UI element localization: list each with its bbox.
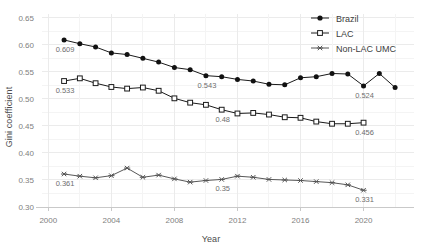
data-label-0-533: 0.533 xyxy=(56,86,75,95)
data-point-marker xyxy=(93,81,98,86)
data-point-marker xyxy=(314,119,319,124)
data-point-marker xyxy=(77,76,82,81)
y-axis-title: Gini coefficient xyxy=(4,77,14,157)
y-tick-label: 0.30 xyxy=(18,203,34,212)
data-point-marker xyxy=(188,67,193,72)
data-point-marker xyxy=(345,72,350,77)
x-tick-label: 2020 xyxy=(355,216,373,225)
data-point-marker xyxy=(314,74,319,79)
data-label-0-524: 0.524 xyxy=(355,91,374,100)
data-point-marker xyxy=(140,85,145,90)
legend-marker-open-square-icon xyxy=(318,31,323,36)
data-point-marker xyxy=(361,120,366,125)
series-line-non-lac-umc xyxy=(64,168,363,190)
data-label-0-543: 0.543 xyxy=(198,81,217,90)
data-label-0-35: 0.35 xyxy=(215,184,230,193)
data-point-marker xyxy=(93,44,98,49)
data-point-marker xyxy=(188,100,193,105)
data-point-marker xyxy=(156,88,161,93)
data-point-marker xyxy=(156,60,161,65)
data-point-marker xyxy=(345,121,350,126)
data-label-0-48: 0.48 xyxy=(215,115,230,124)
y-tick-label: 0.55 xyxy=(18,68,34,77)
data-label-0-361: 0.361 xyxy=(56,179,75,188)
legend-marker-filled-circle-icon xyxy=(317,15,322,20)
y-tick-label: 0.60 xyxy=(18,41,34,50)
data-point-marker xyxy=(125,86,130,91)
data-point-marker xyxy=(377,71,382,76)
data-point-marker xyxy=(203,73,208,78)
data-point-marker xyxy=(140,56,145,61)
gini-coefficient-line-chart: 0.300.350.400.450.500.550.600.6520002004… xyxy=(0,0,422,252)
data-point-marker xyxy=(361,83,366,88)
data-point-marker xyxy=(298,115,303,120)
data-point-marker xyxy=(298,75,303,80)
data-point-marker xyxy=(282,115,287,120)
data-point-marker xyxy=(62,37,67,42)
data-point-marker xyxy=(235,77,240,82)
y-tick-label: 0.65 xyxy=(18,14,34,23)
data-point-marker xyxy=(77,41,82,46)
y-tick-label: 0.40 xyxy=(18,149,34,158)
x-tick-label: 2008 xyxy=(166,216,184,225)
legend-label-lac: LAC xyxy=(336,29,354,39)
data-point-marker xyxy=(282,82,287,87)
legend-label-brazil: Brazil xyxy=(336,14,359,24)
y-tick-label: 0.50 xyxy=(18,95,34,104)
data-point-marker xyxy=(219,107,224,112)
data-point-marker xyxy=(109,85,114,90)
data-point-marker xyxy=(235,111,240,116)
x-tick-label: 2012 xyxy=(229,216,247,225)
data-point-marker xyxy=(393,85,398,90)
data-point-marker xyxy=(219,74,224,79)
y-tick-label: 0.35 xyxy=(18,176,34,185)
data-point-marker xyxy=(330,71,335,76)
data-point-marker xyxy=(125,52,130,57)
data-point-marker xyxy=(330,121,335,126)
x-tick-label: 2004 xyxy=(102,216,120,225)
legend-label-non-lac-umc: Non-LAC UMC xyxy=(336,44,397,54)
data-point-marker xyxy=(172,96,177,101)
data-label-0-331: 0.331 xyxy=(355,195,374,204)
data-point-marker xyxy=(172,65,177,70)
x-axis-title: Year xyxy=(0,234,422,244)
y-tick-label: 0.45 xyxy=(18,122,34,131)
data-label-0-456: 0.456 xyxy=(355,128,374,137)
data-label-0-609: 0.609 xyxy=(56,45,75,54)
data-point-marker xyxy=(204,102,209,107)
data-point-marker xyxy=(251,79,256,84)
data-point-marker xyxy=(109,50,114,55)
data-point-marker xyxy=(62,79,67,84)
data-point-marker xyxy=(251,111,256,116)
plot-area: 0.300.350.400.450.500.550.600.6520002004… xyxy=(0,0,422,252)
data-point-marker xyxy=(266,82,271,87)
data-point-marker xyxy=(267,112,272,117)
x-tick-label: 2000 xyxy=(39,216,57,225)
x-tick-label: 2016 xyxy=(292,216,310,225)
